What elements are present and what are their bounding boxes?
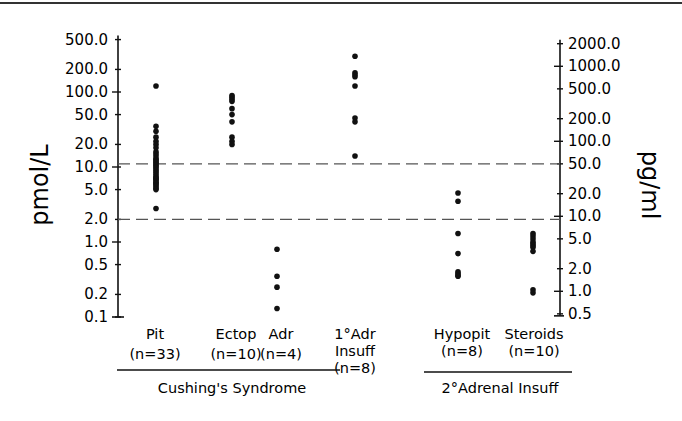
y-tick-label: 100.0 <box>65 83 108 101</box>
y2-tick-label: 200.0 <box>568 110 611 128</box>
y2-axis-title: pg/ml <box>636 151 664 220</box>
data-point <box>229 112 235 118</box>
data-point <box>455 190 461 196</box>
category-n: (n=10) <box>508 343 559 359</box>
data-point <box>274 246 280 252</box>
y-axis-title: pmol/L <box>26 144 54 226</box>
data-point <box>153 123 159 129</box>
category-label: Pit <box>146 326 164 342</box>
category-label: Hypopit <box>434 326 491 342</box>
category-n: (n=8) <box>441 343 483 359</box>
y2-tick-label: 0.5 <box>568 305 592 323</box>
y-tick-label: 0.1 <box>84 308 108 326</box>
y2-tick-label: 1.0 <box>568 282 592 300</box>
data-point <box>455 273 461 279</box>
y-tick-label: 200.0 <box>65 60 108 78</box>
y-tick-label: 10.0 <box>75 158 108 176</box>
category-label: Insuff <box>335 343 376 359</box>
data-point <box>274 273 280 279</box>
data-point <box>229 142 235 148</box>
data-point <box>352 53 358 59</box>
data-point <box>229 99 235 105</box>
data-point <box>352 74 358 80</box>
category-n: (n=10) <box>210 346 261 362</box>
group-label-2nd-adrenal: 2°Adrenal Insuff <box>442 380 560 396</box>
data-point <box>153 187 159 193</box>
data-point <box>352 119 358 125</box>
y2-tick-label: 100.0 <box>568 132 611 150</box>
data-point <box>352 83 358 89</box>
data-point <box>530 290 536 296</box>
category-n: (n=4) <box>260 346 302 362</box>
category-n: (n=33) <box>129 346 180 362</box>
y2-tick-label: 50.0 <box>568 155 601 173</box>
y-tick-label: 0.5 <box>84 256 108 274</box>
data-point <box>153 83 159 89</box>
data-point <box>229 106 235 112</box>
y-tick-label: 20.0 <box>75 135 108 153</box>
y2-tick-label: 20.0 <box>568 185 601 203</box>
data-point <box>352 153 358 159</box>
y-tick-label: 1.0 <box>84 233 108 251</box>
y-tick-label: 0.2 <box>84 285 108 303</box>
y2-tick-label: 500.0 <box>568 80 611 98</box>
y-tick-label: 500.0 <box>65 31 108 49</box>
category-label: Steroids <box>504 326 563 342</box>
data-point <box>274 284 280 290</box>
category-n: (n=8) <box>334 360 376 376</box>
category-label: Ectop <box>216 326 257 342</box>
y2-tick-label: 10.0 <box>568 207 601 225</box>
y2-tick-label: 5.0 <box>568 230 592 248</box>
data-point <box>530 249 536 255</box>
data-point <box>153 206 159 212</box>
group-label-cushings: Cushing's Syndrome <box>158 380 306 396</box>
scatter-chart: 500.0200.0100.050.020.010.05.02.01.00.50… <box>0 0 682 421</box>
y2-tick-label: 2.0 <box>568 260 592 278</box>
y-tick-label: 50.0 <box>75 106 108 124</box>
y-tick-label: 2.0 <box>84 210 108 228</box>
data-point <box>274 306 280 312</box>
data-point <box>455 198 461 204</box>
category-label: Adr <box>269 326 294 342</box>
y-tick-label: 5.0 <box>84 181 108 199</box>
data-point <box>455 231 461 237</box>
y2-tick-label: 1000.0 <box>568 57 621 75</box>
y2-tick-label: 2000.0 <box>568 35 621 53</box>
data-point <box>153 128 159 134</box>
category-label: 1°Adr <box>334 326 375 342</box>
data-point <box>229 119 235 125</box>
data-point <box>455 251 461 257</box>
